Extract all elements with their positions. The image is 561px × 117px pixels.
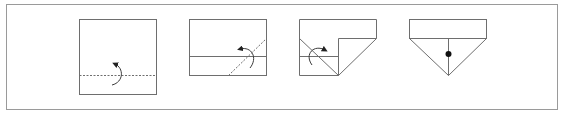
step-4 [410,20,487,76]
fold-diagram [0,0,561,117]
paper-square [80,20,157,95]
step-3 [300,20,377,76]
top-band [410,20,487,39]
paper-rect [190,20,267,76]
dot-marker [446,51,452,57]
step-2 [190,20,267,76]
outer-frame [7,5,558,110]
step-1 [80,20,157,95]
fold-arrow-icon [112,64,121,85]
